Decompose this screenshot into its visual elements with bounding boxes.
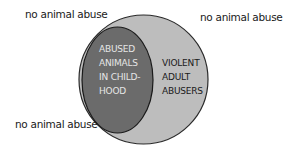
no-animal-abuse-top-left: no animal abuse bbox=[25, 8, 108, 20]
inner-label-line-3: IN CHILD- bbox=[99, 70, 140, 84]
no-animal-abuse-top-right: no animal abuse bbox=[200, 11, 283, 23]
outer-label-line-3: ABUSERS bbox=[162, 84, 203, 98]
outer-label-line-2: ADULT bbox=[162, 70, 203, 84]
inner-label-line-1: ABUSED bbox=[99, 42, 140, 56]
no-animal-abuse-bottom-left: no animal abuse bbox=[15, 118, 98, 130]
outer-label-line-1: VIOLENT bbox=[162, 56, 203, 70]
violent-adult-abusers-label: VIOLENT ADULT ABUSERS bbox=[162, 56, 203, 98]
inner-label-line-4: HOOD bbox=[99, 84, 140, 98]
inner-label-line-2: ANIMALS bbox=[99, 56, 140, 70]
venn-diagram bbox=[0, 0, 299, 155]
abused-animals-label: ABUSED ANIMALS IN CHILD- HOOD bbox=[99, 42, 140, 98]
